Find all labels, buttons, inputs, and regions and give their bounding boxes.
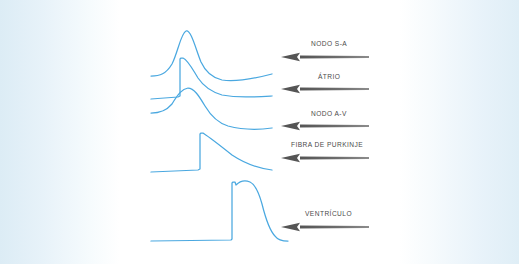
arrow-head (281, 53, 300, 61)
label-fibra-de-purkinje: FIBRA DE PURKINJE (291, 141, 363, 148)
label-nodo-av: NODO A-V (311, 110, 347, 117)
label-atrio: ÁTRIO (318, 73, 340, 80)
arrow-shaft (300, 226, 369, 229)
label-nodo-sa: NODO S-A (311, 40, 347, 47)
arrow-atrio (281, 85, 369, 93)
arrow-ventriculo (281, 223, 369, 231)
cardiac-conduction-figure: NODO S-AÁTRIONODO A-VFIBRA DE PURKINJEVE… (0, 0, 519, 264)
arrow-shaft (300, 88, 369, 91)
arrow-head (281, 154, 300, 162)
arrow-shaft (300, 125, 369, 128)
arrow-nodo-sa (281, 53, 369, 61)
arrow-head (281, 85, 300, 93)
arrow-head (281, 223, 300, 231)
arrow-shaft (300, 157, 369, 160)
label-ventriculo: VENTRÍCULO (305, 210, 352, 217)
arrow-shaft (300, 56, 369, 59)
arrow-fibra-de-purkinje (281, 154, 369, 162)
arrow-head (281, 122, 300, 130)
arrow-nodo-av (281, 122, 369, 130)
annotation-arrows (0, 0, 519, 264)
